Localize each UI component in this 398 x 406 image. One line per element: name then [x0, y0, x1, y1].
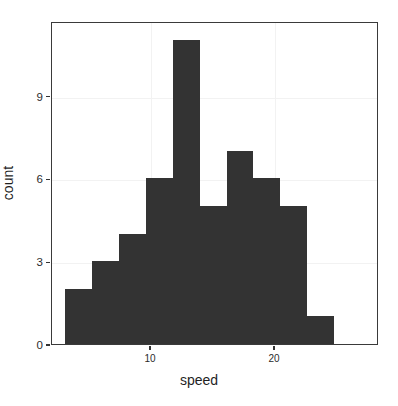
y-axis-tick-mark	[46, 96, 50, 97]
y-axis-tick-label: 3	[11, 256, 43, 268]
plot-panel	[51, 22, 378, 345]
histogram-bar	[65, 289, 92, 344]
histogram-bar	[92, 261, 119, 344]
x-axis-tick-label: 10	[145, 353, 156, 364]
histogram-bar	[253, 178, 280, 344]
x-axis-title: speed	[0, 372, 398, 388]
y-axis-tick-label: 9	[11, 91, 43, 103]
histogram-bar	[307, 316, 334, 344]
y-axis-tick-mark	[46, 344, 50, 345]
y-axis-tick-label: 0	[11, 339, 43, 351]
histogram-bar	[146, 178, 173, 344]
histogram-bar	[227, 151, 254, 344]
gridline-horizontal	[52, 98, 377, 99]
gridline-horizontal	[52, 180, 377, 181]
histogram-bar	[280, 206, 307, 344]
x-axis-tick-mark	[273, 346, 274, 350]
y-axis-title: count	[0, 166, 16, 200]
histogram-bar	[200, 206, 227, 344]
histogram-figure: 03691020 speed count	[0, 0, 398, 406]
y-axis-tick-mark	[46, 179, 50, 180]
histogram-bar	[119, 234, 146, 344]
histogram-bar	[173, 40, 200, 344]
y-axis-tick-mark	[46, 262, 50, 263]
x-axis-tick-mark	[149, 346, 150, 350]
plot-area	[52, 23, 377, 344]
x-axis-tick-label: 20	[268, 353, 279, 364]
